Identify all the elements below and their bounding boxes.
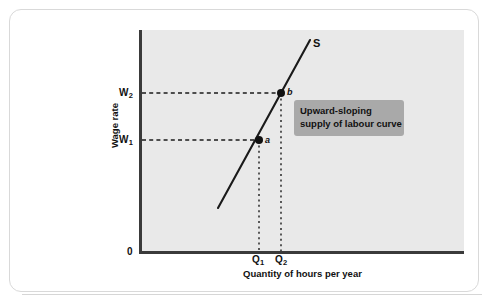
x-axis-title: Quantity of hours per year (141, 268, 464, 279)
data-point-b (277, 89, 285, 97)
x-tick-q2-sub: 2 (283, 258, 287, 267)
y-tick-w1-sub: 1 (129, 138, 133, 147)
y-tick-label-w1: W1 (119, 134, 133, 145)
data-point-label-a: a (265, 135, 270, 145)
y-tick-w2-sub: 2 (129, 91, 133, 100)
y-axis-title: Wage rate (109, 96, 120, 156)
x-tick-label-q1: Q1 (252, 254, 264, 265)
chart-vector-layer (0, 0, 489, 301)
x-tick-q1-sub: 1 (260, 258, 264, 267)
y-tick-w1-main: W (119, 134, 129, 145)
supply-curve-label: S (313, 37, 320, 49)
callout-line-2: supply of labour curve (300, 117, 398, 130)
bottom-divider (22, 294, 482, 295)
figure-card: W2 W1 Q1 Q2 0 S a b Wage rate Quantity o… (0, 0, 489, 301)
y-tick-w2-main: W (119, 87, 129, 98)
chart-plot: W2 W1 Q1 Q2 0 S a b Wage rate Quantity o… (0, 0, 489, 301)
data-point-a (255, 136, 263, 144)
callout-line-1: Upward-sloping (300, 104, 398, 117)
x-tick-label-q2: Q2 (275, 254, 287, 265)
callout-box: Upward-sloping supply of labour curve (294, 100, 404, 136)
x-tick-q1-main: Q (252, 254, 260, 265)
x-tick-q2-main: Q (275, 254, 283, 265)
y-tick-label-w2: W2 (119, 87, 133, 98)
origin-label: 0 (127, 246, 133, 257)
data-point-label-b: b (287, 87, 293, 97)
